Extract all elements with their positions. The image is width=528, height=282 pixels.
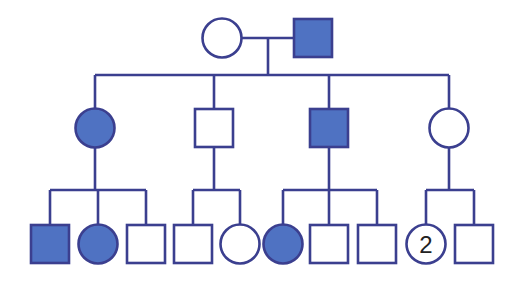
pedigree-chart: 2 xyxy=(0,0,528,282)
individual-II-3-male-affected xyxy=(310,109,348,147)
male-square-symbol xyxy=(455,225,493,263)
individual-III-9-female-unaffected: 2 xyxy=(407,225,446,264)
male-square-symbol xyxy=(310,109,348,147)
individual-III-10-male-unaffected xyxy=(455,225,493,263)
individual-III-8-male-unaffected xyxy=(358,225,396,263)
male-square-symbol xyxy=(358,225,396,263)
male-square-symbol xyxy=(294,19,332,57)
individual-III-5-female-unaffected xyxy=(221,225,260,264)
individuals: 2 xyxy=(31,19,493,264)
individual-II-2-male-unaffected xyxy=(195,109,233,147)
individual-III-7-male-unaffected xyxy=(310,225,348,263)
individual-II-1-female-affected xyxy=(76,109,115,148)
female-circle-symbol xyxy=(203,19,242,58)
male-square-symbol xyxy=(31,225,69,263)
female-circle-symbol xyxy=(430,109,469,148)
sibling-count-label: 2 xyxy=(419,231,432,258)
male-square-symbol xyxy=(127,225,165,263)
individual-II-4-female-unaffected xyxy=(430,109,469,148)
male-square-symbol xyxy=(174,225,212,263)
individual-III-1-male-affected xyxy=(31,225,69,263)
female-circle-symbol xyxy=(76,109,115,148)
female-circle-symbol xyxy=(264,225,303,264)
female-circle-symbol xyxy=(79,225,118,264)
individual-I-2-male-affected xyxy=(294,19,332,57)
male-square-symbol xyxy=(195,109,233,147)
individual-I-1-female-unaffected xyxy=(203,19,242,58)
individual-III-2-female-affected xyxy=(79,225,118,264)
individual-III-6-female-affected xyxy=(264,225,303,264)
individual-III-3-male-unaffected xyxy=(127,225,165,263)
individual-III-4-male-unaffected xyxy=(174,225,212,263)
male-square-symbol xyxy=(310,225,348,263)
female-circle-symbol xyxy=(221,225,260,264)
